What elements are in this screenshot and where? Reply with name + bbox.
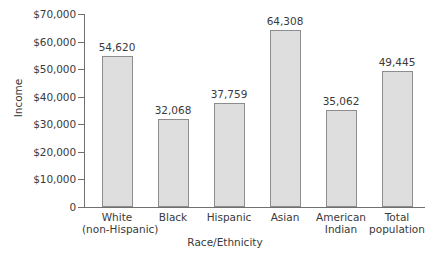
bar xyxy=(382,71,413,207)
bar xyxy=(270,30,301,207)
y-axis-tick xyxy=(78,69,84,70)
bar xyxy=(158,119,189,207)
y-axis-tick xyxy=(78,14,84,15)
bar-value-label: 32,068 xyxy=(143,105,203,116)
y-axis-title: Income xyxy=(12,68,24,128)
y-axis-line xyxy=(84,14,85,208)
x-axis-category-label: Totalpopulation xyxy=(362,211,432,235)
x-axis-category-label-line: (non-Hispanic) xyxy=(82,223,152,235)
y-axis-tick-label: $10,000 xyxy=(4,174,76,184)
x-axis-title: Race/Ethnicity xyxy=(135,236,315,248)
y-axis-tick xyxy=(78,124,84,125)
y-axis-tick xyxy=(78,179,84,180)
y-axis-tick-label-wrap: 0 xyxy=(0,202,76,212)
y-axis-tick xyxy=(78,152,84,153)
y-axis-tick-label: $20,000 xyxy=(4,147,76,157)
y-axis-tick-label-wrap: $10,000 xyxy=(0,174,76,184)
x-axis-category-label-line: Total xyxy=(362,211,432,223)
bar-value-label: 54,620 xyxy=(87,42,147,53)
bar xyxy=(326,110,357,207)
y-axis-tick-label: $70,000 xyxy=(4,9,76,19)
y-axis-tick-label-wrap: $20,000 xyxy=(0,147,76,157)
x-axis-category-label-line: population xyxy=(362,223,432,235)
y-axis-tick xyxy=(78,97,84,98)
bar xyxy=(102,56,133,207)
y-axis-tick-label-wrap: $70,000 xyxy=(0,9,76,19)
y-axis-tick xyxy=(78,42,84,43)
bar-value-label: 35,062 xyxy=(311,96,371,107)
y-axis-tick xyxy=(78,207,84,208)
bar-value-label: 37,759 xyxy=(199,89,259,100)
y-axis-tick-label: $60,000 xyxy=(4,37,76,47)
bar xyxy=(214,103,245,207)
bar-value-label: 64,308 xyxy=(255,16,315,27)
bar-chart: 0$10,000$20,000$30,000$40,000$50,000$60,… xyxy=(0,0,439,262)
y-axis-tick-label: 0 xyxy=(4,202,76,212)
x-axis-line xyxy=(84,207,425,208)
y-axis-tick-label-wrap: $60,000 xyxy=(0,37,76,47)
bar-value-label: 49,445 xyxy=(367,57,427,68)
